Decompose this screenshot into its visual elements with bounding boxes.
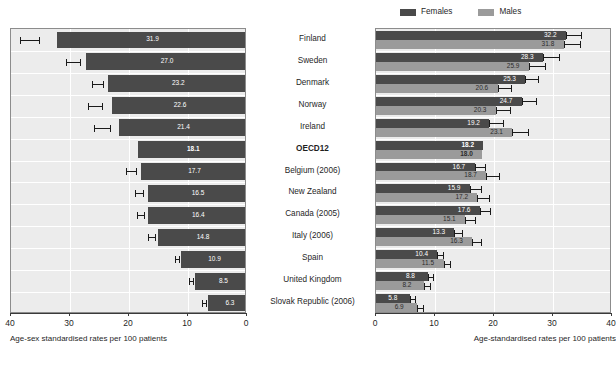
error-bar-cap (202, 300, 203, 307)
bar-value-label: 31.9 (146, 36, 159, 43)
error-bar-cap (480, 208, 481, 215)
category-label: Norway (250, 101, 375, 109)
error-bar-cap (444, 261, 445, 268)
error-bar-cap (126, 168, 127, 175)
axis-tick-label: 10 (182, 319, 191, 328)
error-bar (512, 132, 528, 133)
error-bar-cap (136, 168, 137, 175)
error-bar-cap (503, 120, 504, 127)
bar-value-label: 17.6 (458, 207, 471, 214)
error-bar-cap (144, 212, 145, 219)
category-label: Sweden (250, 57, 375, 65)
bar-value-label: 18.2 (461, 142, 474, 149)
error-bar-cap (450, 261, 451, 268)
axis-tick (611, 313, 612, 316)
error-bar-cap (433, 274, 434, 281)
error-bar-cap (559, 54, 560, 61)
axis-tick-label: 40 (5, 319, 14, 328)
row-separator (11, 73, 245, 74)
bar-value-label: 13.3 (432, 229, 445, 236)
legend-item-females: Females (400, 8, 452, 16)
axis-tick (128, 313, 129, 316)
bar-value-label: 18.7 (464, 172, 477, 179)
error-bar-cap (66, 59, 67, 66)
error-bar (94, 128, 111, 129)
error-bar-cap (465, 217, 466, 224)
category-label: United Kingdom (250, 276, 375, 284)
bar-value-label: 14.8 (197, 234, 210, 241)
error-bar-cap (193, 278, 194, 285)
left-axis-title: Age-sex standardised rates per 100 patie… (10, 334, 167, 343)
bar-row: 28.325.9 (376, 53, 610, 71)
error-bar-cap (94, 125, 95, 132)
error-bar-cap (428, 274, 429, 281)
bar-value-label: 10.4 (415, 251, 428, 258)
right-axis-title: Age-standardised rates per 100 patients (474, 334, 616, 343)
error-bar (543, 57, 559, 58)
chart-figure: 31.927.023.222.621.418.117.716.516.414.8… (0, 0, 616, 373)
row-separator (376, 51, 610, 52)
error-bar (88, 106, 102, 107)
error-bar-cap (462, 230, 463, 237)
bar-value-label: 16.3 (450, 238, 463, 245)
legend-label-females: Females (421, 8, 452, 16)
bar-value-label: 18.1 (187, 146, 200, 153)
bar-value-label: 15.9 (448, 185, 461, 192)
bar-row: 18.1 (11, 141, 245, 158)
error-bar (470, 189, 481, 190)
bar-value-label: 25.3 (503, 76, 516, 83)
left-plot-area: 31.927.023.222.621.418.117.716.516.414.8… (10, 28, 246, 313)
error-bar-cap (423, 305, 424, 312)
error-bar (529, 66, 545, 67)
row-separator (376, 292, 610, 293)
axis-tick-label: 30 (64, 319, 73, 328)
bar-value-label: 20.6 (476, 85, 489, 92)
error-bar-cap (135, 190, 136, 197)
bar-value-label: 21.4 (177, 124, 190, 131)
bar-value-label: 8.8 (406, 273, 415, 280)
bar-value-label: 5.8 (388, 295, 397, 302)
error-bar-cap (189, 278, 190, 285)
category-label: Slovak Republic (2006) (250, 298, 375, 306)
bar-value-label: 32.2 (544, 32, 557, 39)
error-bar-cap (490, 208, 491, 215)
error-bar (486, 176, 499, 177)
error-bar-cap (475, 217, 476, 224)
error-bar-cap (137, 212, 138, 219)
error-bar-cap (580, 41, 581, 48)
error-bar-cap (536, 98, 537, 105)
error-bar-cap (499, 173, 500, 180)
bar-females (376, 53, 543, 62)
error-bar (137, 215, 144, 216)
bar-females (376, 272, 428, 281)
error-bar-cap (437, 252, 438, 259)
legend-item-males: Males (478, 8, 521, 16)
error-bar-cap (410, 296, 411, 303)
row-separator (376, 226, 610, 227)
error-bar-cap (179, 256, 180, 263)
error-bar-cap (528, 129, 529, 136)
bar-value-label: 8.5 (219, 278, 228, 285)
error-bar-cap (566, 32, 567, 39)
category-label: Italy (2006) (250, 232, 375, 240)
bar-value-label: 18.0 (460, 151, 473, 158)
error-bar (477, 198, 489, 199)
bar-row: 16.5 (11, 185, 245, 202)
error-bar-cap (148, 234, 149, 241)
bar-value-label: 8.2 (402, 282, 411, 289)
error-bar (525, 79, 538, 80)
legend-swatch-males-icon (478, 9, 494, 16)
axis-tick-label: 40 (606, 319, 615, 328)
error-bar-cap (175, 256, 176, 263)
error-bar (498, 88, 512, 89)
bar-value-label: 17.2 (455, 194, 468, 201)
error-bar-cap (143, 190, 144, 197)
right-plot-area: 32.231.828.325.925.320.624.720.319.223.1… (375, 28, 611, 313)
axis-tick (246, 313, 247, 316)
row-separator (11, 204, 245, 205)
row-separator (11, 161, 245, 162)
bar-row: 21.4 (11, 119, 245, 136)
error-bar (522, 101, 537, 102)
error-bar-cap (102, 103, 103, 110)
bar-row: 32.231.8 (376, 31, 610, 49)
